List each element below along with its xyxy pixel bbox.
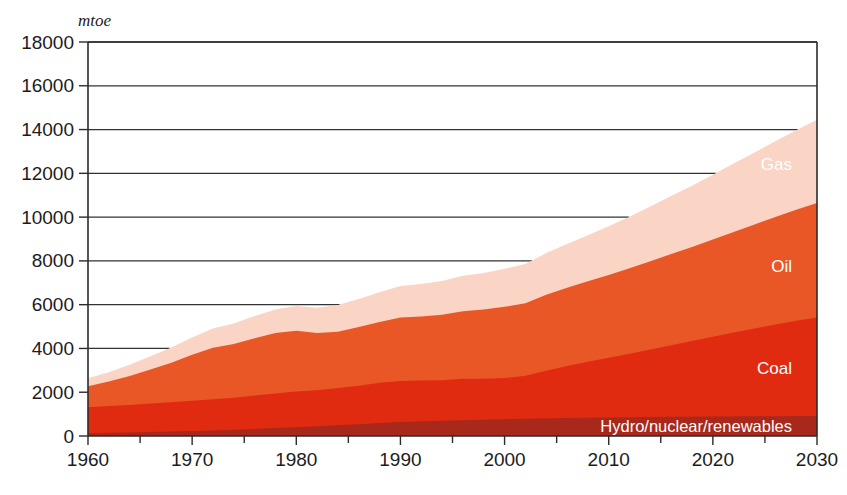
y-axis-unit-label: mtoe (78, 11, 112, 30)
x-tick-label-1960: 1960 (67, 449, 109, 470)
series-label-gas: Gas (761, 155, 792, 174)
y-tick-label-16000: 16000 (21, 75, 74, 96)
y-tick-label-2000: 2000 (32, 382, 74, 403)
x-tick-label-1980: 1980 (275, 449, 317, 470)
y-tick-label-10000: 10000 (21, 207, 74, 228)
x-tick-label-2030: 2030 (796, 449, 838, 470)
y-tick-label-12000: 12000 (21, 163, 74, 184)
y-tick-label-4000: 4000 (32, 338, 74, 359)
x-tick-label-2010: 2010 (588, 449, 630, 470)
y-tick-label-8000: 8000 (32, 250, 74, 271)
y-tick-label-0: 0 (63, 426, 74, 447)
series-label-hydro-nuclear-renewables: Hydro/nuclear/renewables (600, 417, 792, 435)
y-tick-label-18000: 18000 (21, 32, 74, 53)
y-tick-label-6000: 6000 (32, 294, 74, 315)
y-tick-label-14000: 14000 (21, 119, 74, 140)
x-tick-label-2000: 2000 (483, 449, 525, 470)
chart-figure: 0200040006000800010000120001400016000180… (0, 0, 847, 495)
x-tick-label-1970: 1970 (171, 449, 213, 470)
series-label-coal: Coal (757, 359, 792, 378)
x-tick-label-1990: 1990 (379, 449, 421, 470)
stacked-area-chart: 0200040006000800010000120001400016000180… (0, 0, 847, 495)
x-tick-label-2020: 2020 (692, 449, 734, 470)
series-label-oil: Oil (771, 257, 792, 276)
